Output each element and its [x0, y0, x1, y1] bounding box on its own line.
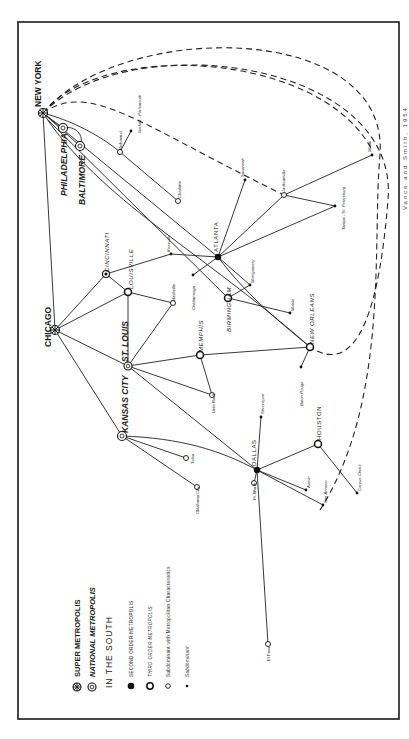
figure-caption: Vance and Smith, 1954: [402, 106, 408, 210]
label-savannah: Savannah: [240, 157, 245, 177]
label-nashville: Nashville: [171, 283, 176, 301]
node-houston[interactable]: [315, 441, 322, 448]
legend-subdominant: Subdominant: [185, 646, 190, 677]
label-memphis: MEMPHIS: [198, 320, 204, 352]
dashed-links: [43, 48, 388, 510]
node-savannah[interactable]: [244, 179, 247, 182]
metropolis-hierarchy-map: NEW YORK PHILADELPHIA BALTIMORE Richmond…: [0, 0, 409, 739]
label-chicago: CHICAGO: [43, 306, 53, 347]
label-louisville: LOUISVILLE: [128, 248, 134, 289]
label-baton-rouge: Baton Rouge: [299, 381, 304, 406]
node-baltimore[interactable]: [76, 142, 85, 151]
label-st-louis: ST. LOUIS: [120, 321, 130, 362]
legend-in-the-south: IN THE SOUTH: [104, 616, 114, 688]
node-montgomery[interactable]: [249, 284, 252, 287]
label-jacksonville: Jacksonville: [281, 169, 286, 192]
label-kansas-city: KANSAS CITY: [120, 374, 130, 433]
legend-third-order: THIRD ORDER METROPOLIS: [148, 606, 153, 677]
third-order-icon: [147, 683, 153, 689]
label-san-antonio: San Antonio: [323, 480, 328, 503]
label-tampa: Tampa - St. Petersburg: [341, 186, 346, 230]
node-mobile[interactable]: [289, 312, 292, 315]
node-austin[interactable]: [305, 489, 308, 492]
label-shreveport: Shreveport: [260, 393, 265, 414]
node-st-louis[interactable]: [124, 362, 132, 370]
super-metropolis-icon: [73, 683, 81, 691]
node-tulsa[interactable]: [184, 456, 189, 461]
node-corpus-christi[interactable]: [356, 492, 359, 495]
label-oklahoma-city: Oklahoma City: [195, 486, 200, 514]
legend-subdominant-metro: Subdominant with Metropolitan Characteri…: [166, 566, 171, 677]
label-tulsa: Tulsa: [190, 453, 195, 464]
label-el-paso: El Paso: [266, 646, 271, 661]
label-dallas: DALLAS: [251, 439, 257, 466]
subdominant-icon: [186, 685, 189, 688]
label-new-york: NEW YORK: [33, 60, 43, 107]
city-labels: NEW YORK PHILADELPHIA BALTIMORE Richmond…: [33, 60, 372, 661]
node-dallas[interactable]: [254, 467, 261, 474]
second-order-icon: [128, 683, 135, 690]
label-birmingham: BIRMINGHAM: [226, 287, 232, 332]
node-knoxville[interactable]: [170, 253, 173, 256]
label-knoxville: Knoxville: [166, 235, 171, 252]
node-jacksonville[interactable]: [282, 193, 287, 198]
node-baton-rouge[interactable]: [300, 366, 303, 369]
node-atlanta[interactable]: [215, 254, 222, 261]
label-austin: Austin: [306, 476, 311, 489]
node-shreveport[interactable]: [260, 416, 263, 419]
node-tampa[interactable]: [334, 205, 337, 208]
legend-national-metropolis: NATIONAL METROPOLIS: [88, 587, 97, 677]
node-miami[interactable]: [371, 154, 374, 157]
label-ft-worth: Ft. Worth: [252, 482, 257, 500]
label-little-rock: Little Rock: [211, 393, 216, 413]
label-chattanooga: Chattanooga: [191, 285, 196, 310]
label-baltimore: BALTIMORE: [77, 155, 87, 205]
node-charlotte[interactable]: [176, 199, 181, 204]
label-cincinnati: CINCINNATI: [104, 232, 110, 272]
label-norfolk: Norfolk - Portsmouth: [137, 94, 142, 133]
legend-super-metropolis: SUPER METROPOLIS: [73, 599, 82, 677]
node-philadelphia[interactable]: [59, 124, 68, 133]
node-el-paso[interactable]: [266, 642, 271, 647]
solid-links: [43, 113, 372, 644]
label-atlanta: ATLANTA: [213, 222, 219, 252]
node-norfolk[interactable]: [130, 130, 133, 133]
label-mobile: Mobile: [290, 298, 295, 311]
node-chattanooga[interactable]: [192, 274, 195, 277]
legend-second-order: SECOND ORDER METROPOLIS: [129, 600, 134, 677]
label-montgomery: Montgomery: [250, 259, 255, 283]
city-nodes: [39, 109, 374, 647]
national-metropolis-icon: [88, 683, 96, 691]
subdominant-metro-icon: [166, 684, 171, 689]
label-houston: HOUSTON: [316, 406, 322, 440]
label-charlotte: Charlotte: [177, 180, 182, 198]
legend: SUPER METROPOLIS NATIONAL METROPOLIS IN …: [73, 566, 190, 691]
node-new-york[interactable]: [39, 109, 48, 118]
label-philadelphia: PHILADELPHIA: [59, 133, 69, 196]
label-richmond: Richmond: [118, 130, 123, 150]
label-corpus-christi: Corpus Christi: [357, 463, 362, 491]
label-miami: Miami: [367, 140, 372, 152]
label-new-orleans: NEW ORLEANS: [309, 293, 315, 344]
node-san-antonio[interactable]: [322, 504, 325, 507]
